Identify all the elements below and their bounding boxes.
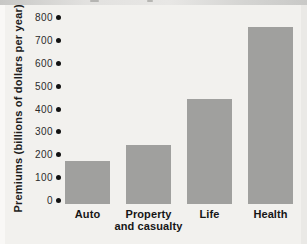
y-tick-label: 300 [0, 126, 53, 137]
y-tick-dot-icon [56, 15, 61, 20]
insurance-premiums-bar-chart: Premiums (billions of dollars per year) … [0, 0, 307, 244]
y-tick-dot-icon [56, 61, 61, 66]
bar-life [187, 99, 232, 204]
bar-health [248, 27, 293, 204]
y-tick-dot-icon [56, 129, 61, 134]
bar-property-and-casualty [126, 145, 171, 204]
y-tick-label: 700 [0, 35, 53, 46]
x-category-label-line: Health [226, 209, 308, 221]
y-tick-dot-icon [56, 84, 61, 89]
y-tick-dot-icon [56, 107, 61, 112]
y-tick-label: 800 [0, 12, 53, 23]
x-category-label-line: and casualty [104, 221, 194, 233]
page-top-edge [0, 0, 307, 5]
scan-artifact [90, 0, 99, 2]
y-tick-label: 200 [0, 149, 53, 160]
y-tick-label: 600 [0, 58, 53, 69]
y-tick-dot-icon [56, 175, 61, 180]
bar-auto [65, 161, 110, 204]
y-tick-dot-icon [56, 198, 61, 203]
y-tick-label: 100 [0, 172, 53, 183]
y-tick-dot-icon [56, 38, 61, 43]
x-category-label: Health [226, 209, 308, 221]
y-tick-label: 0 [0, 195, 53, 206]
y-tick-label: 400 [0, 104, 53, 115]
y-tick-dot-icon [56, 152, 61, 157]
scan-artifact [147, 0, 153, 2]
y-tick-label: 500 [0, 81, 53, 92]
